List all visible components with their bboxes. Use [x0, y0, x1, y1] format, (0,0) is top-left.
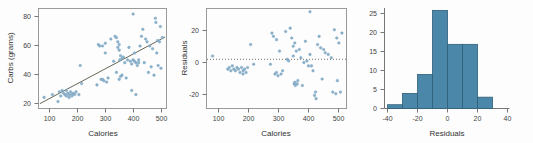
data-point	[101, 45, 104, 48]
scatter-points	[43, 13, 164, 103]
data-point	[142, 28, 145, 31]
x-axis-title: Calories	[88, 129, 117, 138]
data-point	[155, 21, 158, 24]
figure-panel-group: 80 60 40 20 100 200 300 400 500	[0, 0, 533, 143]
data-point	[292, 45, 295, 48]
x-tick-label: 400	[128, 115, 140, 122]
data-point	[132, 13, 135, 16]
data-point	[117, 41, 120, 44]
data-point	[121, 74, 124, 77]
x-tick-label: 40	[504, 115, 512, 122]
data-point	[284, 30, 287, 33]
y-tick-label: 80	[23, 13, 31, 20]
data-point	[336, 79, 339, 82]
data-point	[322, 48, 325, 51]
histogram-bars	[388, 10, 493, 108]
data-point	[321, 78, 324, 81]
data-point	[269, 63, 272, 66]
data-point	[104, 42, 107, 45]
data-point	[246, 66, 249, 69]
data-point	[234, 69, 237, 72]
plot-frame	[39, 9, 167, 109]
data-point	[118, 49, 121, 52]
x-tick-label: -20	[412, 115, 422, 122]
data-point	[73, 93, 76, 96]
y-tick-label: 20	[23, 100, 31, 107]
data-point	[335, 92, 338, 95]
data-point	[75, 91, 78, 94]
x-axis-title: Residuals	[429, 129, 464, 138]
data-point	[289, 27, 292, 30]
scatter-points	[211, 10, 343, 99]
data-point	[137, 61, 140, 64]
histogram-bar	[463, 44, 478, 108]
data-point	[43, 96, 46, 99]
data-point	[118, 43, 121, 46]
scatter-carbs-svg: 80 60 40 20 100 200 300 400 500	[0, 0, 176, 143]
histogram-bar	[433, 10, 448, 108]
y-axis-ticks: 80 60 40 20	[23, 13, 38, 107]
data-point	[324, 51, 327, 54]
data-point	[65, 89, 68, 92]
data-point	[151, 47, 154, 50]
y-tick-label: 40	[23, 71, 31, 78]
data-point	[105, 81, 108, 84]
data-point	[115, 36, 118, 39]
data-point	[333, 29, 336, 32]
y-axis-ticks: 0 5 10 15 20 25	[369, 10, 384, 112]
data-point	[277, 74, 280, 77]
x-axis-ticks: 100 200 300 400 500	[213, 109, 345, 123]
y-axis-title: Carbs (grams)	[6, 32, 15, 83]
data-point	[295, 50, 298, 53]
data-point	[281, 69, 284, 72]
data-point	[306, 60, 309, 63]
y-tick-label: 0	[373, 105, 377, 112]
data-point	[135, 93, 138, 96]
data-point	[338, 42, 341, 45]
data-point	[107, 77, 110, 80]
data-point	[61, 89, 64, 92]
data-point	[318, 35, 321, 38]
y-tick-label: 60	[23, 42, 31, 49]
histogram-bar	[478, 97, 493, 108]
y-tick-label: 20	[369, 29, 377, 36]
data-point	[240, 66, 243, 69]
data-point	[310, 65, 313, 68]
data-point	[315, 97, 318, 100]
data-point	[339, 91, 342, 94]
data-point	[149, 45, 152, 48]
data-point	[341, 32, 344, 35]
residual-histogram-svg: 0 5 10 15 20 25 -40 -20 0 20 40 Residu	[354, 0, 533, 143]
data-point	[130, 63, 133, 66]
data-point	[69, 91, 72, 94]
data-point	[301, 84, 304, 87]
data-point	[65, 95, 68, 98]
histogram-bar	[403, 93, 418, 108]
data-point	[287, 60, 290, 63]
data-point	[312, 69, 315, 72]
data-point	[154, 17, 157, 20]
data-point	[300, 56, 303, 59]
data-point	[129, 60, 132, 63]
data-point	[115, 71, 118, 74]
data-point	[297, 79, 300, 82]
data-point	[98, 45, 101, 48]
x-tick-label: 100	[213, 115, 225, 122]
x-tick-label: 500	[333, 115, 345, 122]
data-point	[303, 61, 306, 64]
data-point	[230, 69, 233, 72]
data-point	[125, 77, 128, 80]
y-tick-label: 0	[195, 59, 199, 66]
y-tick-label: 5	[373, 86, 377, 93]
data-point	[144, 38, 147, 41]
data-point	[157, 64, 160, 67]
data-point	[117, 46, 120, 49]
data-point	[228, 66, 231, 69]
data-point	[160, 67, 163, 70]
data-point	[292, 55, 295, 58]
data-point	[252, 63, 255, 66]
y-axis-ticks: 20 0 -20	[189, 27, 207, 98]
data-point	[128, 46, 131, 49]
data-point	[245, 71, 248, 74]
panel-scatter-carbs-vs-calories: 80 60 40 20 100 200 300 400 500	[0, 0, 176, 143]
